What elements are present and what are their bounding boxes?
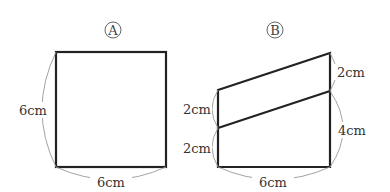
figure-b-left-bottom-label: 2cm <box>183 141 211 156</box>
figure-a-title: A <box>107 23 118 38</box>
figure-b: B 2cm 2cm 2cm 4cm 6cm <box>180 22 368 190</box>
figure-b-right-top-label: 2cm <box>337 65 365 80</box>
divider-line <box>218 91 330 128</box>
diagram-canvas: A 6cm 6cm B 2cm 2cm 2cm 4cm <box>0 0 390 192</box>
figure-a-left-label: 6cm <box>19 103 47 118</box>
figure-b-left-top-label: 2cm <box>183 102 211 117</box>
figure-a-bottom-label: 6cm <box>97 175 125 190</box>
figure-a: A 6cm 6cm <box>16 22 166 190</box>
figure-b-bottom-label: 6cm <box>259 175 287 190</box>
figure-b-right-bottom-label: 4cm <box>338 123 366 138</box>
figures-svg: A 6cm 6cm B 2cm 2cm 2cm 4cm <box>0 0 390 192</box>
figure-b-title: B <box>270 23 280 38</box>
square-a <box>56 52 166 167</box>
